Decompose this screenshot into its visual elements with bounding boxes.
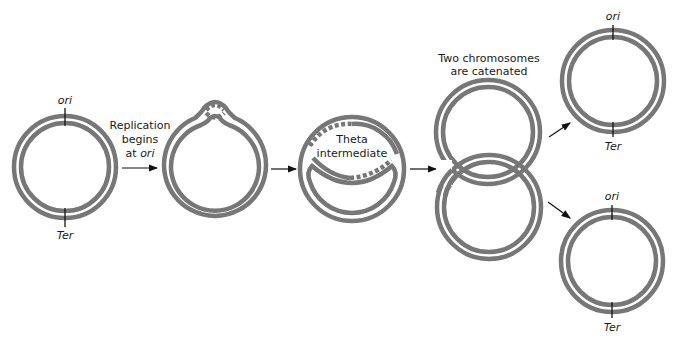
theta-line1: Theta [335,133,368,146]
ter-label: Ter [604,321,622,334]
diagram-root: ori Ter Replication begins at ori Theta … [0,0,676,340]
step1-line3: at ori [126,147,155,160]
step1-line1: Replication [110,119,171,132]
stage-replication-bubble [164,102,266,216]
stage-theta-intermediate: Theta intermediate [300,117,404,221]
stage-daughter-chromosome-lower: ori Ter [561,190,663,334]
theta-line2: intermediate [317,147,388,160]
stage-catenated-chromosomes: Two chromosomes are catenated [436,52,541,259]
catenated-line1: Two chromosomes [437,52,540,65]
stage-daughter-chromosome-upper: ori Ter [562,10,664,153]
step1-line2: begins [122,133,159,146]
ter-label: Ter [605,140,623,153]
arrow-down-right-icon [548,202,570,218]
ori-label: ori [58,94,72,107]
ter-label: Ter [57,229,75,242]
arrow-up-right-icon [549,123,570,137]
ori-label: ori [605,190,619,203]
replication-diagram: ori Ter Replication begins at ori Theta … [0,0,676,340]
ori-label: ori [606,10,620,23]
stage-circular-chromosome: ori Ter [14,94,116,242]
catenated-line2: are catenated [451,65,528,78]
step-label-replication-begins: Replication begins at ori [110,119,171,160]
